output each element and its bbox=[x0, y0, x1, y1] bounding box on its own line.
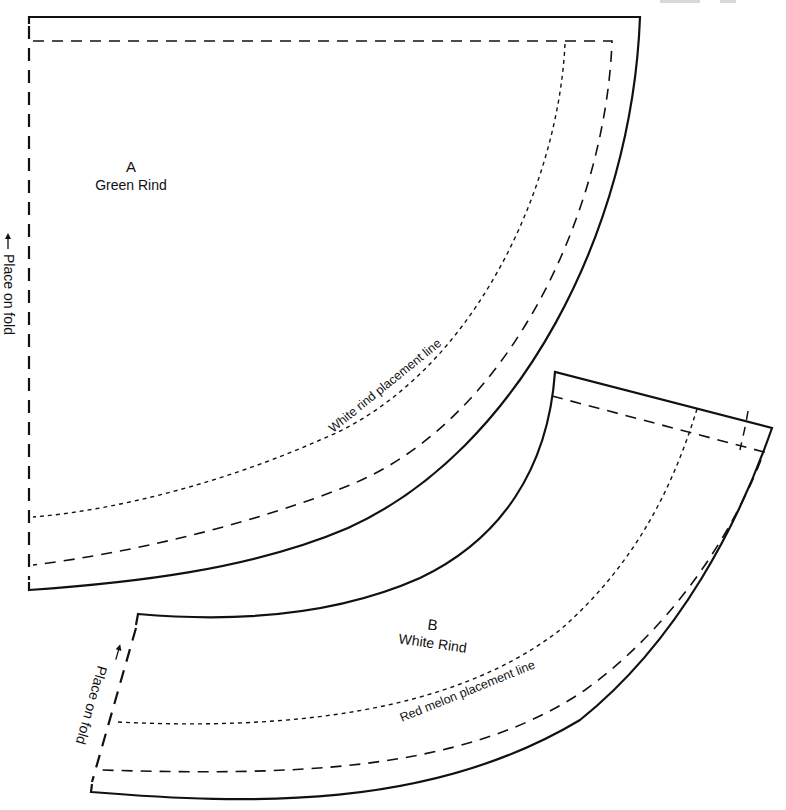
piece-b-cut-line bbox=[91, 372, 772, 799]
piece-b-name: White Rind bbox=[398, 630, 468, 655]
piece-b-side-seam bbox=[740, 411, 748, 450]
piece-b-seam-line bbox=[100, 396, 764, 772]
piece-b-fold-marker: Place on fold bbox=[73, 643, 123, 746]
pattern-piece-a: A Green Rind White rind placement line P… bbox=[1, 17, 640, 590]
header-fragment bbox=[660, 0, 736, 3]
pattern-sheet: A Green Rind White rind placement line P… bbox=[0, 0, 786, 810]
piece-a-placement-label: White rind placement line bbox=[326, 336, 444, 435]
piece-a-seam-line bbox=[33, 41, 612, 565]
pattern-piece-b: B White Rind Red melon placement line Pl… bbox=[73, 372, 772, 799]
arrow-up-icon bbox=[5, 233, 11, 249]
piece-b-placement-label: Red melon placement line bbox=[398, 658, 537, 725]
piece-a-fold-marker: Place on fold bbox=[1, 233, 17, 335]
piece-a-fold-label: Place on fold bbox=[1, 254, 17, 335]
arrow-up-icon bbox=[113, 643, 123, 660]
piece-b-placement-line bbox=[117, 409, 697, 724]
piece-a-letter: A bbox=[126, 158, 136, 175]
piece-b-letter: B bbox=[427, 615, 439, 633]
piece-a-name: Green Rind bbox=[95, 177, 167, 193]
piece-a-placement-line bbox=[33, 44, 565, 517]
